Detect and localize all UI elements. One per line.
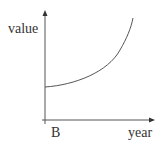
y-axis-label: value — [8, 22, 38, 36]
growth-curve — [45, 18, 133, 87]
x-axis-label: year — [128, 126, 152, 140]
x-axis-arrow-icon — [149, 118, 155, 123]
origin-label: B — [51, 126, 60, 140]
y-axis-arrow-icon — [43, 10, 48, 16]
